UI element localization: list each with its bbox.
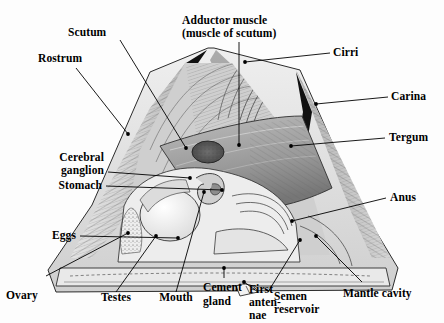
label-semen-reservoir: Semen — [274, 291, 307, 303]
figure-canvas: Rostrum Scutum Adductor muscle (muscle o… — [0, 0, 444, 323]
label-first-antennae-l3: nae — [249, 310, 267, 322]
label-scutum: Scutum — [68, 27, 106, 39]
label-semen-reservoir-sub: reservoir — [274, 304, 319, 316]
label-rostrum: Rostrum — [38, 53, 82, 65]
label-tergum: Tergum — [389, 132, 428, 144]
label-first-antennae: First — [249, 284, 273, 296]
label-mouth: Mouth — [148, 292, 204, 304]
label-stomach: Stomach — [4, 180, 102, 192]
label-anus: Anus — [390, 192, 416, 204]
label-adductor-muscle: Adductor muscle — [182, 15, 267, 27]
label-adductor-muscle-sub: (muscle of scutum) — [182, 28, 276, 40]
label-eggs: Eggs — [4, 230, 76, 242]
label-cerebral-ganglion-sub: ganglion — [6, 165, 104, 177]
label-ovary: Ovary — [6, 290, 38, 302]
label-carina: Carina — [391, 91, 426, 103]
label-cement-gland-sub: gland — [203, 296, 231, 308]
label-cerebral-ganglion: Cerebral — [6, 152, 104, 164]
label-testes: Testes — [86, 292, 146, 304]
label-cirri: Cirri — [333, 47, 358, 59]
label-cement-gland: Cement — [203, 282, 242, 294]
label-mantle-cavity: Mantle cavity — [343, 288, 412, 300]
